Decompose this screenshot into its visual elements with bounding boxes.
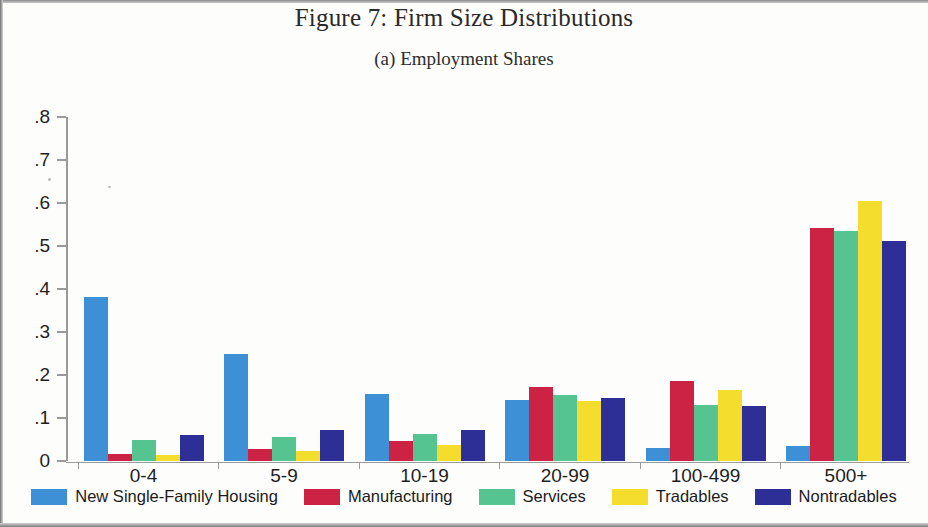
bar (718, 390, 742, 461)
bar (389, 441, 413, 461)
y-axis-tick-label: 0 (39, 450, 50, 472)
legend-color-swatch (31, 489, 67, 505)
bar (224, 354, 248, 461)
bar (132, 440, 156, 462)
bar (461, 430, 485, 461)
legend-label: Manufacturing (348, 487, 453, 506)
bar (553, 395, 577, 461)
x-axis-category-label: 5-9 (270, 465, 297, 487)
bar (742, 406, 766, 461)
y-axis-tick-label: .6 (34, 192, 50, 214)
y-axis-tick: .1 (57, 417, 66, 418)
bar (505, 400, 529, 461)
legend-color-swatch (755, 489, 791, 505)
scan-speck (48, 178, 51, 181)
bar (694, 405, 718, 461)
bar (413, 434, 437, 461)
bar (437, 445, 461, 461)
bar (646, 448, 670, 461)
y-axis-tick: .4 (57, 288, 66, 289)
legend-item: Services (479, 487, 586, 506)
bar (272, 437, 296, 461)
bar (858, 201, 882, 461)
bar (670, 381, 694, 461)
legend-color-swatch (479, 489, 515, 505)
bar (108, 454, 132, 461)
y-axis-tick: .7 (57, 159, 66, 160)
bar (320, 430, 344, 461)
scan-edge-bottom (0, 523, 928, 527)
legend-item: New Single-Family Housing (31, 487, 278, 506)
bar-group-10-19 (365, 117, 485, 461)
x-axis-tick (78, 462, 79, 469)
y-axis-tick: .5 (57, 245, 66, 246)
x-axis-tick (640, 462, 641, 469)
x-axis-tick (499, 462, 500, 469)
x-axis-line (66, 462, 909, 464)
y-axis-tick-label: .5 (34, 235, 50, 257)
legend-label: Nontradables (799, 487, 897, 506)
x-axis-category-label: 20-99 (541, 465, 590, 487)
bar (601, 398, 625, 461)
y-axis-tick-label: .8 (34, 106, 50, 128)
bar (786, 446, 810, 461)
legend-item: Manufacturing (304, 487, 453, 506)
bar (810, 228, 834, 461)
y-axis-tick: .3 (57, 331, 66, 332)
legend-label: Services (523, 487, 586, 506)
legend-label: Tradables (656, 487, 729, 506)
figure-container: Figure 7: Firm Size Distributions (a) Em… (0, 0, 928, 527)
y-axis-tick-label: .2 (34, 364, 50, 386)
bar (180, 435, 204, 461)
bar (365, 394, 389, 461)
y-axis-tick-label: .1 (34, 407, 50, 429)
x-axis-category-label: 10-19 (400, 465, 449, 487)
legend-item: Nontradables (755, 487, 897, 506)
y-axis-tick: .2 (57, 374, 66, 375)
bar (84, 297, 108, 461)
figure-title: Figure 7: Firm Size Distributions (0, 4, 928, 32)
y-axis-tick-label: .3 (34, 321, 50, 343)
y-axis-tick: 0 (57, 460, 66, 461)
bar (248, 449, 272, 461)
scan-edge-left (0, 0, 3, 527)
bar (882, 241, 906, 461)
x-axis-tick (359, 462, 360, 469)
bar-group-20-99 (505, 117, 625, 461)
figure-subtitle: (a) Employment Shares (0, 48, 928, 70)
x-axis-tick (218, 462, 219, 469)
bar (156, 455, 180, 461)
y-axis-tick: .6 (57, 202, 66, 203)
y-axis-tick-label: .7 (34, 149, 50, 171)
bar (834, 231, 858, 461)
scan-edge-top (0, 0, 928, 3)
y-axis-tick: .8 (57, 116, 66, 117)
bars-layer (68, 117, 910, 461)
legend-item: Tradables (612, 487, 729, 506)
x-axis-category-label: 500+ (825, 465, 868, 487)
legend: New Single-Family HousingManufacturingSe… (0, 487, 928, 506)
bar (296, 451, 320, 461)
bar-group-500- (786, 117, 906, 461)
y-axis-tick-label: .4 (34, 278, 50, 300)
bar-group-100-499 (646, 117, 766, 461)
x-axis-category-label: 100-499 (671, 465, 741, 487)
bar-group-5-9 (224, 117, 344, 461)
legend-label: New Single-Family Housing (75, 487, 278, 506)
plot-area: 0.1.2.3.4.5.6.7.8 0-45-910-1920-99100-49… (66, 117, 909, 461)
legend-color-swatch (612, 489, 648, 505)
legend-color-swatch (304, 489, 340, 505)
x-axis-tick (780, 462, 781, 469)
bar-group-0-4 (84, 117, 204, 461)
bar (529, 387, 553, 461)
bar (577, 401, 601, 461)
x-axis-category-label: 0-4 (130, 465, 157, 487)
